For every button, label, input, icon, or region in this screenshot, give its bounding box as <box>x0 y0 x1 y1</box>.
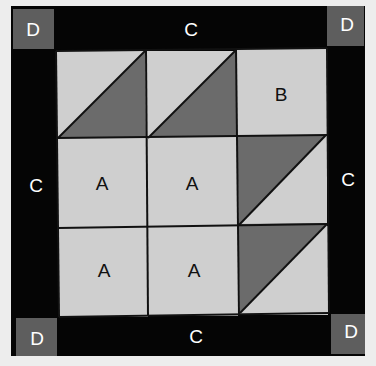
cell-label-r2-c1: A <box>96 173 109 194</box>
border-label-left: C <box>29 175 43 196</box>
cell-label-r2-c2: A <box>186 173 199 194</box>
border-label-top: C <box>184 19 198 40</box>
corner-label-top-right: D <box>340 14 354 35</box>
corner-label-bottom-right: D <box>344 321 358 342</box>
cell-label-r1-c3: B <box>275 84 288 105</box>
cell-label-r3-c1: A <box>98 260 111 281</box>
corner-label-bottom-left: D <box>30 328 44 349</box>
cell-label-r3-c2: A <box>188 260 201 281</box>
quilt-block-diagram: D D D D C C C C <box>0 0 376 366</box>
border-label-right: C <box>341 169 355 190</box>
corner-label-top-left: D <box>26 19 40 40</box>
border-label-bottom: C <box>189 326 203 347</box>
